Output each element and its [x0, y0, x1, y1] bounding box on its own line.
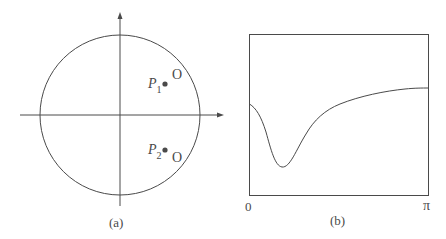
plot-frame — [250, 35, 429, 196]
x-axis-arrow-icon — [217, 113, 224, 118]
panel-b-plot — [250, 35, 429, 196]
pole-p2-dot — [162, 147, 167, 152]
figure-graphics — [0, 0, 446, 239]
p1-subscript: 1 — [157, 84, 162, 95]
p1-name: P — [148, 76, 157, 91]
zero-2-marker: O — [172, 151, 182, 165]
response-curve — [250, 88, 429, 167]
y-axis-arrow-icon — [118, 12, 123, 19]
p2-name: P — [148, 142, 157, 157]
pole-p1-dot — [162, 81, 167, 86]
panel-b-caption: (b) — [330, 214, 345, 227]
p1-label: P1 — [148, 77, 162, 91]
zero-1-marker: O — [172, 68, 182, 82]
panel-a-diagram — [20, 12, 224, 206]
p2-label: P2 — [148, 143, 162, 157]
panel-a-caption: (a) — [109, 216, 123, 229]
x-tick-pi: π — [423, 199, 430, 213]
x-tick-zero: 0 — [245, 200, 252, 213]
p2-subscript: 2 — [157, 150, 162, 161]
